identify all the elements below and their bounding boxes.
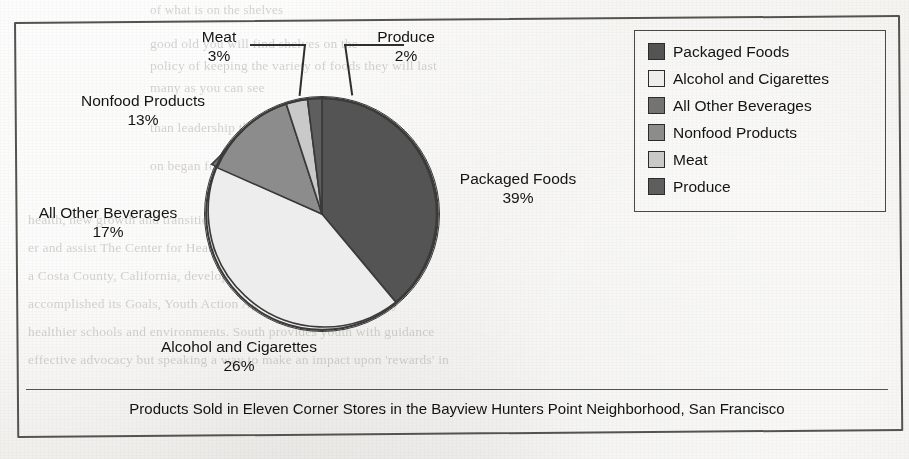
- pie-label-packaged-foods-pct: 39%: [438, 189, 598, 208]
- legend-item-packaged-foods[interactable]: Packaged Foods: [635, 38, 885, 65]
- pie-label-alcohol-and-cigarettes-pct: 26%: [134, 357, 344, 376]
- legend-item-meat[interactable]: Meat: [635, 146, 885, 173]
- pie-label-nonfood-products-name: Nonfood Products: [58, 92, 228, 111]
- legend-label: Alcohol and Cigarettes: [673, 70, 829, 88]
- pie-label-packaged-foods: Packaged Foods 39%: [438, 170, 598, 208]
- legend-swatch-icon: [648, 43, 665, 60]
- chart-legend: Packaged Foods Alcohol and Cigarettes Al…: [634, 30, 886, 212]
- leader-line-meat-vertical: [299, 44, 306, 96]
- pie-label-meat-pct: 3%: [174, 47, 264, 66]
- legend-label: Packaged Foods: [673, 43, 789, 61]
- legend-label: Produce: [673, 178, 731, 196]
- legend-item-nonfood-products[interactable]: Nonfood Products: [635, 119, 885, 146]
- pie-label-produce-pct: 2%: [356, 47, 456, 66]
- pie-label-all-other-beverages-pct: 17%: [12, 223, 204, 242]
- legend-swatch-icon: [648, 70, 665, 87]
- legend-swatch-icon: [648, 124, 665, 141]
- pie-label-all-other-beverages-name: All Other Beverages: [12, 204, 204, 223]
- legend-item-alcohol-and-cigarettes[interactable]: Alcohol and Cigarettes: [635, 65, 885, 92]
- legend-label: Nonfood Products: [673, 124, 797, 142]
- pie-label-meat: Meat 3%: [174, 28, 264, 66]
- legend-label: Meat: [673, 151, 707, 169]
- legend-swatch-icon: [648, 97, 665, 114]
- pie-label-nonfood-products: Nonfood Products 13%: [58, 92, 228, 130]
- legend-label: All Other Beverages: [673, 97, 812, 115]
- figure-caption: Products Sold in Eleven Corner Stores in…: [129, 400, 784, 417]
- pie-label-nonfood-products-pct: 13%: [58, 111, 228, 130]
- pie-slices: [205, 97, 439, 331]
- pie-label-meat-name: Meat: [174, 28, 264, 47]
- pie-label-all-other-beverages: All Other Beverages 17%: [12, 204, 204, 242]
- leader-line-produce-vertical: [344, 44, 353, 96]
- pie-chart-figure: Meat 3% Produce 2% Nonfood Products 13% …: [26, 30, 888, 426]
- pie-label-produce: Produce 2%: [356, 28, 456, 66]
- pie-label-alcohol-and-cigarettes: Alcohol and Cigarettes 26%: [134, 338, 344, 376]
- pie-label-alcohol-and-cigarettes-name: Alcohol and Cigarettes: [134, 338, 344, 357]
- pie-label-produce-name: Produce: [356, 28, 456, 47]
- legend-item-produce[interactable]: Produce: [635, 173, 885, 200]
- legend-item-all-other-beverages[interactable]: All Other Beverages: [635, 92, 885, 119]
- figure-caption-bar: Products Sold in Eleven Corner Stores in…: [26, 389, 888, 426]
- pie-chart[interactable]: [204, 96, 440, 332]
- pie-label-packaged-foods-name: Packaged Foods: [438, 170, 598, 189]
- legend-swatch-icon: [648, 178, 665, 195]
- pie-area: Meat 3% Produce 2% Nonfood Products 13% …: [26, 30, 586, 380]
- legend-swatch-icon: [648, 151, 665, 168]
